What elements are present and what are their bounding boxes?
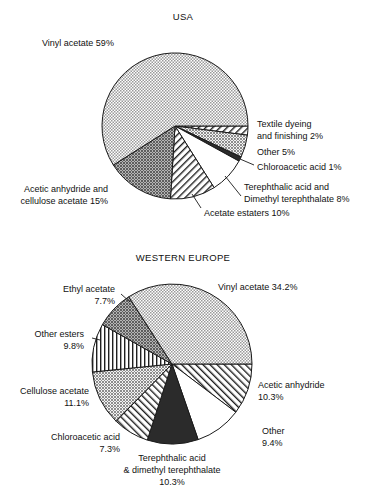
we-label-acetic-anhydride-line2: 10.3% xyxy=(258,392,284,402)
we-label-other-line1: Other xyxy=(262,426,285,436)
we-label-terephthalic-line1: Terephthalic acid xyxy=(138,453,206,463)
acetic-acid-consumption-figure: USA Vinyl acetate 59% Textile dy xyxy=(0,0,367,504)
usa-label-acetic-anhydride-line1: Acetic anhydride and xyxy=(24,184,108,194)
usa-label-acetate-estaters: Acetate estaters 10% xyxy=(204,208,290,218)
we-label-cellulose-line1: Cellulose acetate xyxy=(20,386,89,396)
usa-leader-chloroacetic xyxy=(240,159,254,165)
we-label-vinyl-acetate: Vinyl acetate 34.2% xyxy=(218,282,297,292)
we-label-cellulose-line2: 11.1% xyxy=(64,398,89,408)
western-europe-chart: WESTERN EUROPE Vinyl acetate 3 xyxy=(20,252,325,487)
we-label-chloroacetic-line2: 7.3% xyxy=(99,444,120,454)
usa-label-terephthalic-line1: Terephthalic acid and xyxy=(244,182,329,192)
usa-label-textile-dyeing-line2: and finishing 2% xyxy=(257,131,323,141)
usa-chart: USA Vinyl acetate 59% Textile dy xyxy=(20,11,349,218)
we-label-terephthalic-line2: & dimethyl terephthalate xyxy=(123,465,220,475)
we-label-chloroacetic-line1: Chloroacetic acid xyxy=(51,432,120,442)
western-europe-pie xyxy=(92,284,252,444)
pie-charts-svg: USA Vinyl acetate 59% Textile dy xyxy=(0,0,367,504)
usa-label-other: Other 5% xyxy=(257,147,295,157)
we-label-terephthalic-line3: 10.3% xyxy=(159,477,185,487)
usa-chart-title: USA xyxy=(173,11,194,22)
we-label-acetic-anhydride-line1: Acetic anhydride xyxy=(258,380,325,390)
we-label-other-esters-line2: 9.8% xyxy=(63,341,84,351)
usa-leader-terephthalic xyxy=(225,176,241,196)
usa-label-terephthalic-line2: Dimethyl terephthalate 8% xyxy=(244,194,350,204)
we-label-other-line2: 9.4% xyxy=(262,438,283,448)
western-europe-chart-title: WESTERN EUROPE xyxy=(136,252,230,263)
we-label-ethyl-acetate-line2: 7.7% xyxy=(94,296,115,306)
we-label-ethyl-acetate-line1: Ethyl acetate xyxy=(63,284,115,294)
usa-label-textile-dyeing-line1: Textile dyeing xyxy=(257,119,312,129)
usa-label-acetic-anhydride-line2: cellulose acetate 15% xyxy=(20,196,108,206)
usa-label-vinyl-acetate: Vinyl acetate 59% xyxy=(42,38,114,48)
usa-label-chloroacetic-acid: Chloroacetic acid 1% xyxy=(257,162,342,172)
we-label-other-esters-line1: Other esters xyxy=(34,329,84,339)
